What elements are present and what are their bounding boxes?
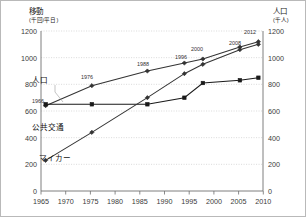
left-tick-200: 200 — [25, 160, 37, 169]
chart-canvas: 移動 (千回/平日) 人口 (千人) 1200 1000 800 600 400… — [1, 1, 306, 217]
annotation-2000: 2000 — [191, 46, 203, 52]
data-point — [257, 76, 260, 79]
x-tick-1975: 1975 — [82, 197, 98, 206]
annotation-2012: 2012 — [244, 29, 256, 35]
x-tick-1990: 1990 — [157, 197, 173, 206]
x-tick-1995: 1995 — [181, 197, 197, 206]
left-axis-ticks: 1200 1000 800 600 400 200 0 — [21, 27, 37, 196]
right-axis-ticks: 1200 1000 800 600 400 200 0 — [268, 27, 284, 196]
right-tick-0: 0 — [268, 187, 272, 196]
left-tick-1200: 1200 — [21, 27, 37, 36]
series-population — [44, 40, 261, 108]
left-axis-title: 移動 — [29, 6, 44, 16]
right-tick-600: 600 — [268, 107, 280, 116]
data-point — [145, 69, 149, 73]
x-tick-2005: 2005 — [231, 197, 247, 206]
data-point — [183, 96, 186, 99]
annotation-1996: 1996 — [175, 54, 187, 60]
annotation-1966: 1966 — [32, 98, 44, 104]
data-point — [238, 48, 242, 52]
series-label-public-transit: 公共交通 — [32, 122, 64, 132]
right-tick-800: 800 — [268, 80, 280, 89]
x-tick-2010: 2010 — [255, 197, 271, 206]
data-point — [201, 62, 205, 66]
left-tick-600: 600 — [25, 107, 37, 116]
right-tick-1000: 1000 — [268, 54, 284, 63]
x-tick-1965: 1965 — [33, 197, 49, 206]
series-public-transit — [44, 76, 260, 106]
series-label-car-group: マイカー — [39, 154, 71, 163]
left-tick-400: 400 — [25, 134, 37, 143]
right-tick-1200: 1200 — [268, 27, 284, 36]
annotation-1988: 1988 — [137, 61, 149, 67]
right-axis-title: 人口 — [273, 7, 287, 16]
x-tick-1980: 1980 — [107, 197, 123, 206]
data-point — [238, 79, 241, 82]
series-label-private-car: マイカー — [39, 154, 71, 163]
right-tick-400: 400 — [268, 134, 280, 143]
gridlines — [41, 31, 263, 164]
annotation-1976: 1976 — [81, 74, 93, 80]
left-tick-1000: 1000 — [21, 54, 37, 63]
annotation-2008: 2008 — [229, 40, 241, 46]
series-label-population: 人口 — [32, 76, 48, 85]
chart-container: 移動 (千回/平日) 人口 (千人) 1200 1000 800 600 400… — [0, 0, 306, 217]
annotations: 1966 1976 1988 1996 2000 2008 2012 — [32, 29, 256, 104]
x-axis-ticks: 1965 1970 1975 1980 1985 1990 1995 2000 … — [33, 197, 271, 206]
left-tick-0: 0 — [33, 187, 37, 196]
series-private-car — [44, 42, 261, 162]
right-tick-200: 200 — [268, 160, 280, 169]
left-axis-unit: (千回/平日) — [29, 16, 58, 24]
data-point — [256, 42, 260, 46]
data-point — [44, 103, 47, 106]
right-axis-unit: (千人) — [273, 16, 289, 24]
x-tick-1985: 1985 — [132, 197, 148, 206]
x-tick-2000: 2000 — [206, 197, 222, 206]
x-tick-1970: 1970 — [58, 197, 74, 206]
data-point — [90, 103, 93, 106]
series-label-transit-group: 公共交通 — [32, 122, 64, 132]
data-point — [182, 61, 186, 65]
data-point — [201, 81, 204, 84]
x-axis-tickmarks — [41, 191, 263, 195]
data-point — [90, 84, 94, 88]
data-point — [146, 103, 149, 106]
